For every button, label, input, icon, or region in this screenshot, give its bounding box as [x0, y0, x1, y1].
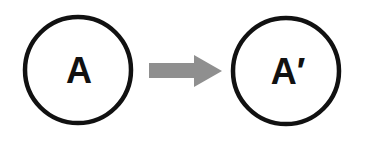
transformation-arrow: [149, 55, 222, 87]
node-source: A: [25, 17, 131, 123]
arrow-right-icon: [149, 55, 222, 87]
node-target: A′: [233, 18, 339, 124]
transformation-diagram: A A′: [0, 0, 367, 146]
node-source-label: A: [66, 50, 92, 91]
node-target-label: A′: [271, 51, 306, 92]
